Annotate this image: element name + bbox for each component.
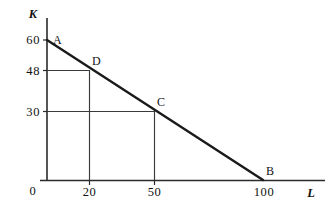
point-label-C: C [157, 95, 165, 109]
y-axis-title: K [28, 7, 39, 21]
y-tick-label-30: 30 [26, 105, 40, 119]
point-label-B: B [266, 164, 274, 178]
x-tick-label-100: 100 [254, 185, 275, 199]
y-tick-label-48: 48 [26, 64, 40, 78]
x-tick-label-50: 50 [148, 185, 162, 199]
y-tick-label-60: 60 [26, 33, 40, 47]
chart-canvas: K L 60 48 30 0 20 50 100 A D C B [0, 0, 331, 214]
point-label-A: A [53, 33, 62, 47]
origin-label: 0 [30, 184, 37, 198]
point-label-D: D [92, 54, 101, 68]
x-axis-title: L [306, 186, 315, 200]
x-tick-label-20: 20 [83, 185, 97, 199]
